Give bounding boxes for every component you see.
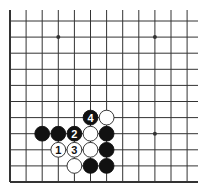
star-point-icon xyxy=(153,35,157,39)
white-stone xyxy=(83,126,98,141)
black-stone xyxy=(99,142,114,157)
black-stone xyxy=(35,126,50,141)
go-board: 4213 xyxy=(0,0,204,194)
black-stone: 2 xyxy=(67,126,82,141)
move-number-label: 2 xyxy=(71,128,77,140)
white-stone: 1 xyxy=(51,142,66,157)
black-stone: 4 xyxy=(83,110,98,125)
white-stone xyxy=(83,142,98,157)
black-stone xyxy=(99,159,114,174)
star-point-icon xyxy=(153,132,157,136)
move-number-label: 3 xyxy=(71,144,77,156)
black-stone xyxy=(99,126,114,141)
move-number-label: 1 xyxy=(55,144,61,156)
star-point-icon xyxy=(56,35,60,39)
move-number-label: 4 xyxy=(87,112,94,124)
white-stone xyxy=(99,110,114,125)
black-stone xyxy=(51,126,66,141)
white-stone: 3 xyxy=(67,142,82,157)
white-stone xyxy=(67,159,82,174)
black-stone xyxy=(83,159,98,174)
